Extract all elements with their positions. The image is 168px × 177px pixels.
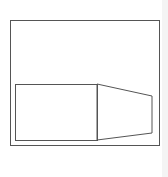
side-strip [162,0,168,177]
inner-rectangle [16,85,98,141]
outer-frame [11,21,160,146]
trapezoid-shape [97,84,152,140]
diagram-canvas [0,0,168,177]
diagram-svg [0,0,168,177]
